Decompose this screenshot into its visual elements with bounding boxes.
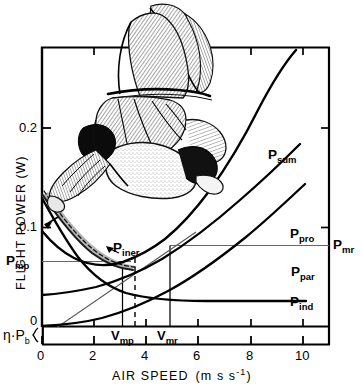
p-iner-text: P bbox=[113, 240, 122, 255]
p-mp-subscript: mp bbox=[15, 260, 29, 271]
eta-pb-brace bbox=[33, 328, 38, 342]
plot-canvas bbox=[0, 0, 363, 386]
v-mr-text: V bbox=[157, 328, 166, 343]
x-axis-title: AIR SPEED(m s s-1) bbox=[112, 367, 252, 383]
eta-pb-text: η·P bbox=[3, 327, 25, 343]
p-par-curve bbox=[42, 184, 305, 326]
p-par-subscript: par bbox=[300, 271, 315, 282]
eta-pb-subscript: b bbox=[25, 336, 30, 346]
x-tick-label-8: 8 bbox=[246, 348, 253, 363]
p-sum-label: Psum bbox=[268, 147, 297, 165]
p-ind-subscript: ind bbox=[299, 301, 313, 312]
x-tick-label-2: 2 bbox=[89, 348, 96, 363]
x-axis-units-open: (m s bbox=[196, 369, 225, 383]
p-ind-curve bbox=[42, 198, 306, 301]
p-pro-text: P bbox=[290, 226, 299, 241]
flight-power-figure: FLIGHT POWER (W) 0.2 0.1 0 0 2 4 6 8 10 … bbox=[0, 0, 363, 386]
p-mp-label: Pmp bbox=[6, 253, 29, 271]
p-sum-subscript: sum bbox=[277, 154, 297, 165]
y-axis-right-ticks bbox=[321, 128, 328, 228]
x-axis-inner-ticks bbox=[94, 319, 303, 326]
v-mp-label: Vmp bbox=[111, 328, 134, 346]
x-axis-units-exponent: -1 bbox=[236, 367, 246, 377]
y-tick-label-0.1: 0.1 bbox=[19, 219, 37, 234]
v-mr-subscript: mr bbox=[166, 335, 178, 346]
y-tick-label-0: 0 bbox=[30, 313, 37, 328]
p-par-text: P bbox=[291, 264, 300, 279]
p-pro-label: Ppro bbox=[290, 226, 314, 244]
v-mp-subscript: mp bbox=[120, 335, 134, 346]
p-iner-subscript: iner bbox=[122, 247, 139, 258]
p-mr-text: P bbox=[333, 237, 342, 252]
x-axis-units-close: ) bbox=[246, 369, 251, 383]
p-mp-text: P bbox=[6, 253, 15, 268]
x-tick-label-0: 0 bbox=[37, 348, 44, 363]
x-tick-label-4: 4 bbox=[141, 348, 148, 363]
p-mr-subscript: mr bbox=[342, 244, 354, 255]
y-tick-label-0.2: 0.2 bbox=[19, 120, 37, 135]
p-par-label: Ppar bbox=[291, 264, 315, 282]
x-axis-title-main: AIR SPEED bbox=[112, 369, 189, 383]
x-tick-label-6: 6 bbox=[193, 348, 200, 363]
v-mr-label: Vmr bbox=[157, 328, 178, 346]
x-tick-label-10: 10 bbox=[295, 348, 309, 363]
p-iner-label: Piner bbox=[113, 240, 139, 258]
p-ind-text: P bbox=[290, 294, 299, 309]
p-pro-subscript: pro bbox=[299, 233, 314, 244]
p-mr-label: Pmr bbox=[333, 237, 354, 255]
p-sum-text: P bbox=[268, 147, 277, 162]
flying-bat-drawing bbox=[47, 4, 226, 212]
p-ind-label: Pind bbox=[290, 294, 313, 312]
v-mp-text: V bbox=[111, 328, 120, 343]
eta-pb-label: η·Pb bbox=[3, 327, 30, 346]
